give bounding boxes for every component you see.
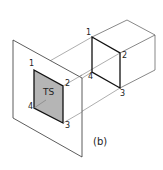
figure-caption: (b) [93, 137, 107, 147]
plane-point-2: 2 [65, 80, 70, 88]
true-size-label: TS [43, 88, 54, 97]
cube-point-1: 1 [86, 29, 91, 37]
diagram-drawing [0, 0, 163, 170]
cube-point-3: 3 [120, 90, 125, 98]
plane-point-4: 4 [28, 103, 33, 111]
plane-point-1: 1 [29, 60, 34, 68]
plane-point-3: 3 [65, 122, 70, 130]
cube-point-2: 2 [122, 52, 127, 60]
cube-front-face [92, 37, 120, 88]
cube-point-4: 4 [88, 73, 93, 81]
projection-diagram: 1 2 3 4 TS 1 2 3 4 (b) [0, 0, 163, 170]
